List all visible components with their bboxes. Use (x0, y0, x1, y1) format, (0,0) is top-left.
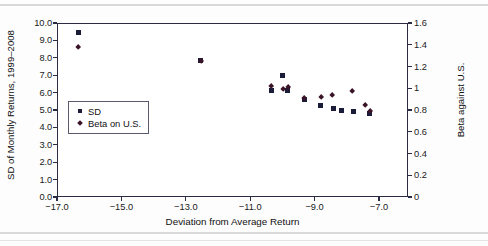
y-tick-mark (53, 92, 57, 93)
secondary-y-tick-label: 0.8 (414, 105, 427, 115)
secondary-y-axis-label: Beta against U.S. (455, 30, 469, 170)
x-tick-mark (121, 197, 122, 201)
data-point (331, 106, 336, 111)
y-tick-label: 3.0 (39, 140, 52, 150)
x-tick-mark (56, 197, 57, 201)
y-tick-label: 7.0 (39, 70, 52, 80)
y-tick-label: 5.0 (39, 105, 52, 115)
secondary-y-tick-label: 1 (414, 83, 419, 93)
y-tick-label: 0.0 (39, 192, 52, 202)
y-tick-label: 1.0 (39, 175, 52, 185)
data-point (318, 103, 323, 108)
square-marker-icon (74, 109, 86, 114)
legend: SD Beta on U.S. (68, 101, 149, 134)
y-axis-label: SD of Monthly Returns, 1999–2008 (5, 10, 19, 200)
secondary-y-tick-label: 0.2 (414, 170, 427, 180)
y-tick-label: 6.0 (39, 88, 52, 98)
y-tick-mark (53, 144, 57, 145)
y-tick-mark (53, 57, 57, 58)
x-axis-label: Deviation from Average Return (57, 216, 408, 227)
y-tick-mark (53, 127, 57, 128)
x-tick-label: −9.0 (305, 202, 323, 212)
x-tick-label: −15.0 (110, 202, 134, 212)
x-tick-label: −11.0 (239, 202, 262, 212)
secondary-y-tick-mark (408, 131, 412, 132)
secondary-y-tick-label: 1.2 (414, 62, 427, 72)
y-tick-label: 4.0 (39, 122, 52, 132)
x-tick-mark (378, 197, 379, 201)
secondary-y-tick-label: 0.6 (414, 127, 427, 137)
y-tick-mark (53, 179, 57, 180)
y-tick-label: 9.0 (39, 35, 52, 45)
data-point (75, 44, 81, 50)
y-tick-mark (53, 22, 57, 23)
secondary-y-tick-mark (408, 109, 412, 110)
legend-item-beta: Beta on U.S. (74, 117, 141, 129)
secondary-y-tick-label: 0.4 (414, 149, 427, 159)
y-tick-mark (53, 109, 57, 110)
secondary-y-tick-mark (408, 175, 412, 176)
data-point (351, 109, 356, 114)
secondary-y-tick-mark (408, 153, 412, 154)
bottom-rule (0, 232, 488, 234)
secondary-y-tick-mark (408, 22, 412, 23)
diamond-marker-icon (74, 121, 86, 125)
x-tick-label: −13.0 (174, 202, 198, 212)
y-tick-mark (53, 40, 57, 41)
x-tick-mark (250, 197, 251, 201)
secondary-y-tick-label: 0 (414, 192, 419, 202)
y-tick-mark (53, 162, 57, 163)
secondary-y-tick-mark (408, 44, 412, 45)
data-point (76, 30, 81, 35)
data-point (349, 88, 355, 94)
secondary-y-tick-label: 1.6 (414, 18, 427, 28)
x-tick-mark (185, 197, 186, 201)
y-tick-label: 8.0 (39, 53, 52, 63)
data-point (362, 102, 368, 108)
y-tick-label: 10.0 (34, 18, 52, 28)
chart-figure: SD of Monthly Returns, 1999–2008 Beta ag… (0, 0, 488, 246)
y-tick-label: 2.0 (39, 157, 52, 167)
x-tick-label: −7.0 (370, 202, 388, 212)
secondary-y-tick-label: 1.4 (414, 40, 427, 50)
data-point (339, 108, 344, 113)
data-point (269, 88, 274, 93)
data-point (318, 94, 324, 100)
y-tick-mark (53, 75, 57, 76)
data-point (330, 92, 336, 98)
legend-item-sd: SD (74, 105, 141, 117)
legend-label: SD (88, 106, 101, 117)
bottom-rule-secondary (0, 240, 488, 241)
secondary-y-tick-mark (408, 88, 412, 89)
top-rule (0, 4, 488, 6)
secondary-y-tick-mark (408, 66, 412, 67)
secondary-y-tick-mark (408, 196, 412, 197)
x-tick-label: −17.0 (45, 202, 69, 212)
legend-label: Beta on U.S. (88, 118, 141, 129)
x-tick-mark (314, 197, 315, 201)
data-point (280, 73, 285, 78)
